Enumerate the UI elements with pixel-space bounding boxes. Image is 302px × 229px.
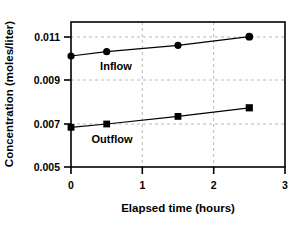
y-tick-label-0007: 0.007 — [34, 118, 60, 130]
y-tick-label-0009: 0.009 — [34, 74, 60, 86]
x-tick-label-0: 0 — [68, 179, 74, 191]
inflow-point-3 — [245, 33, 253, 41]
y-tick-label-0011: 0.011 — [34, 31, 60, 43]
x-tick-label-2: 2 — [211, 179, 217, 191]
outflow-series-annotation: Outflow — [92, 133, 133, 145]
inflow-point-2 — [174, 42, 181, 49]
chart-figure: 0.011 0.009 0.007 0.005 0 1 2 3 Elapsed … — [0, 0, 302, 229]
inflow-point-0 — [67, 52, 74, 59]
y-tick-label-0005: 0.005 — [34, 161, 60, 173]
x-tick-label-3: 3 — [282, 179, 288, 191]
outflow-point-0 — [68, 124, 75, 131]
x-tick-label-1: 1 — [139, 179, 145, 191]
outflow-point-1 — [103, 121, 110, 128]
x-axis-ticks — [71, 167, 285, 174]
x-axis-title: Elapsed time (hours) — [121, 202, 235, 214]
y-axis-title: Concentration (moles/liter) — [3, 21, 15, 167]
inflow-point-1 — [103, 48, 110, 55]
outflow-point-3 — [246, 104, 253, 111]
inflow-series-annotation: Inflow — [100, 60, 132, 72]
outflow-point-2 — [175, 113, 182, 120]
concentration-vs-time-line-chart: 0.011 0.009 0.007 0.005 0 1 2 3 Elapsed … — [0, 0, 302, 229]
